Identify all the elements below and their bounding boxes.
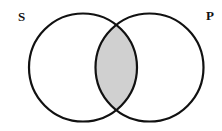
set-label-p: P bbox=[206, 9, 214, 22]
venn-diagram: S P bbox=[0, 0, 222, 131]
set-label-s: S bbox=[18, 10, 25, 23]
venn-svg bbox=[0, 0, 222, 131]
